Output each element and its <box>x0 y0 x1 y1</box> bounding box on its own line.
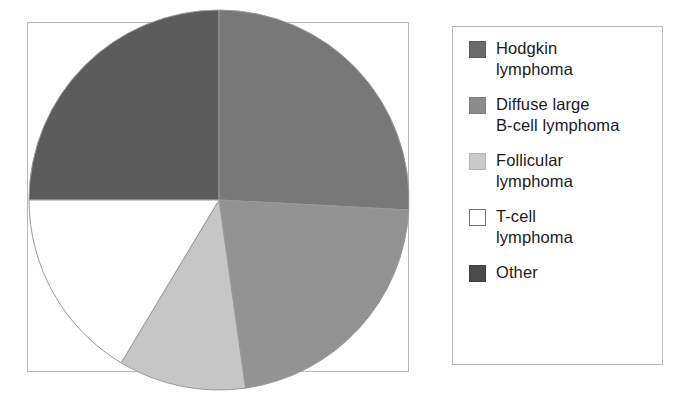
legend-item: Follicular lymphoma <box>469 150 655 192</box>
legend-swatch-icon <box>469 153 486 170</box>
legend-swatch-icon <box>469 265 486 282</box>
legend-item-label: Other <box>496 262 538 283</box>
pie-chart <box>27 20 411 386</box>
legend-swatch-icon <box>469 209 486 226</box>
legend-item-label: Follicular lymphoma <box>496 150 573 192</box>
legend-item-label: T-cell lymphoma <box>496 206 573 248</box>
pie-slice <box>219 200 409 388</box>
legend-swatch-icon <box>469 97 486 114</box>
pie-slice <box>219 10 409 210</box>
pie-slice-group <box>29 10 409 390</box>
legend-panel: Hodgkin lymphomaDiffuse large B-cell lym… <box>452 26 663 365</box>
legend-item-label: Diffuse large B-cell lymphoma <box>496 94 619 136</box>
legend-swatch-icon <box>469 41 486 58</box>
legend-item-label: Hodgkin lymphoma <box>496 38 573 80</box>
pie-slice <box>29 10 219 200</box>
legend-item: Other <box>469 262 655 283</box>
legend-item: T-cell lymphoma <box>469 206 655 248</box>
legend-item: Hodgkin lymphoma <box>469 38 655 80</box>
pie-chart-figure: Hodgkin lymphomaDiffuse large B-cell lym… <box>0 0 679 393</box>
legend-list: Hodgkin lymphomaDiffuse large B-cell lym… <box>469 38 655 283</box>
legend-item: Diffuse large B-cell lymphoma <box>469 94 655 136</box>
